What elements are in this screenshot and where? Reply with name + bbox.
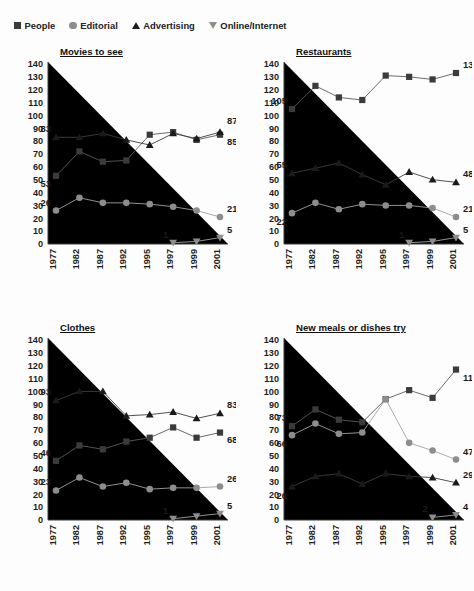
y-axis-tick-label: 30 <box>269 201 279 211</box>
data-point-editorial <box>123 200 130 207</box>
plot-area: 0102030405060708090100110120130140466823… <box>0 334 236 578</box>
data-point-editorial <box>123 479 130 486</box>
data-point-label: 66 <box>277 438 287 449</box>
data-point-editorial <box>100 483 107 490</box>
data-point-label: 5 <box>227 500 232 511</box>
data-point-label: 23 <box>41 476 51 487</box>
x-axis-tick-label: 1997 <box>401 249 411 269</box>
data-point-editorial <box>193 485 200 492</box>
legend-item-editorial: Editorial <box>69 20 118 31</box>
chart-panel-restaurants: Restaurants 0102030405060708090100110120… <box>236 44 472 302</box>
chart-title: Clothes <box>60 322 95 333</box>
x-axis-tick-label: 1987 <box>331 525 341 545</box>
data-point-people <box>289 423 295 429</box>
data-point-people <box>76 442 82 448</box>
data-point-advertising <box>169 408 177 415</box>
data-point-editorial <box>146 486 153 493</box>
legend-label-people: People <box>25 20 56 31</box>
y-axis-tick-label: 50 <box>269 175 279 185</box>
data-point-people <box>76 148 82 154</box>
data-point-label: 117 <box>463 372 472 383</box>
legend-label-advertising: Advertising <box>143 20 195 31</box>
data-point-editorial <box>146 201 153 208</box>
y-axis-tick-label: 10 <box>33 226 43 236</box>
x-axis-tick-label: 1982 <box>71 525 81 545</box>
y-axis-tick-label: 20 <box>33 490 43 500</box>
data-point-label: 68 <box>227 434 236 445</box>
y-axis-tick-label: 110 <box>28 98 43 108</box>
y-axis-tick-label: 90 <box>269 124 279 134</box>
y-axis-tick-label: 90 <box>33 400 43 410</box>
y-axis-tick-label: 120 <box>264 361 279 371</box>
data-point-people <box>147 435 153 441</box>
triangle-up-marker-icon <box>132 22 140 29</box>
data-point-editorial <box>289 432 296 439</box>
plot-area: 0102030405060708090100110120130140105133… <box>236 58 472 302</box>
chart-axes <box>284 62 464 244</box>
data-point-people <box>289 106 295 112</box>
data-point-editorial <box>406 202 413 209</box>
y-axis-tick-label: 70 <box>33 425 43 435</box>
y-axis-tick-label: 80 <box>269 136 279 146</box>
y-axis-tick-label: 70 <box>269 425 279 435</box>
data-point-editorial <box>429 447 436 454</box>
data-point-people <box>123 438 129 444</box>
data-point-label: 46 <box>41 447 51 458</box>
data-point-label: 83 <box>227 399 236 410</box>
data-point-people <box>53 458 59 464</box>
data-point-label: 5 <box>227 224 232 235</box>
chart-svg: 0102030405060708090100110120130140538526… <box>0 58 236 302</box>
data-point-people <box>217 429 223 435</box>
data-point-editorial <box>170 203 177 210</box>
y-axis-tick-label: 0 <box>38 239 43 249</box>
legend-item-online: Online/Internet <box>209 20 287 31</box>
data-point-people <box>53 173 59 179</box>
chart-axes <box>48 338 228 520</box>
x-axis-tick-label: 1977 <box>48 525 58 545</box>
chart-panel-new-meals: New meals or dishes try 0102030405060708… <box>236 320 472 588</box>
data-point-people <box>429 395 435 401</box>
data-point-label: 26 <box>41 197 51 208</box>
x-axis-tick-label: 1992 <box>354 249 364 269</box>
data-point-label: 105 <box>271 95 287 106</box>
data-point-people <box>336 417 342 423</box>
data-point-people <box>312 83 318 89</box>
data-point-people <box>429 76 435 82</box>
chart-panel-clothes: Clothes 01020304050607080901001101201301… <box>0 320 236 588</box>
circle-marker-icon <box>69 22 77 30</box>
y-axis-tick-label: 60 <box>33 162 43 172</box>
y-axis-tick-label: 30 <box>269 477 279 487</box>
data-point-label: 21 <box>227 203 236 214</box>
y-axis-tick-label: 0 <box>38 515 43 525</box>
y-axis-tick-label: 40 <box>269 188 279 198</box>
data-point-people <box>123 157 129 163</box>
data-point-editorial <box>170 485 177 492</box>
x-axis-tick-label: 1995 <box>142 525 152 545</box>
data-point-advertising <box>405 168 413 175</box>
y-axis-tick-label: 0 <box>274 239 279 249</box>
plot-area: 0102030405060708090100110120130140538526… <box>0 58 236 302</box>
x-axis-tick-label: 1995 <box>142 249 152 269</box>
legend-label-online: Online/Internet <box>220 20 286 31</box>
y-axis-tick-label: 140 <box>28 59 43 69</box>
x-axis-tick-label: 1999 <box>425 525 435 545</box>
data-point-people <box>100 159 106 165</box>
y-axis-tick-label: 130 <box>264 72 279 82</box>
y-axis-tick-label: 90 <box>269 400 279 410</box>
data-point-editorial <box>453 214 460 221</box>
x-axis-tick-label: 1987 <box>95 525 105 545</box>
data-point-label: 87 <box>227 115 236 126</box>
data-point-label: 22 <box>277 216 287 227</box>
data-point-editorial <box>76 474 83 481</box>
y-axis-tick-label: 120 <box>28 361 43 371</box>
x-axis-tick-label: 2001 <box>212 525 222 545</box>
x-axis-tick-label: 1992 <box>354 525 364 545</box>
data-point-people <box>453 366 459 372</box>
x-axis-tick-label: 1987 <box>331 249 341 269</box>
y-axis-tick-label: 120 <box>264 85 279 95</box>
data-point-editorial <box>53 207 60 214</box>
data-point-label: 4 <box>463 501 469 512</box>
chart-axes <box>48 62 228 244</box>
data-point-people <box>312 406 318 412</box>
chart-svg: 0102030405060708090100110120130140105133… <box>236 58 472 302</box>
